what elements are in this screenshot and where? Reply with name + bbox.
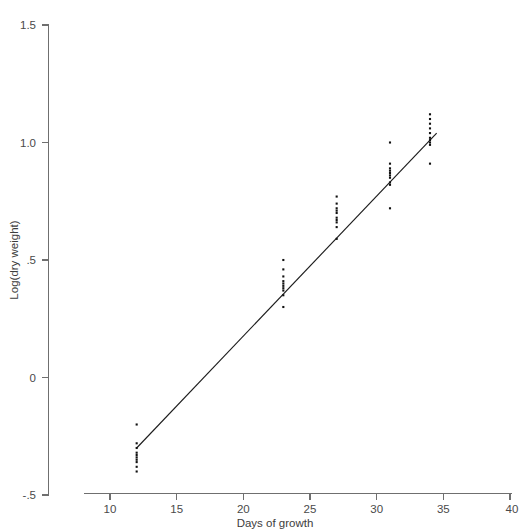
data-point <box>429 141 431 143</box>
y-tick-label-0.5: .5 <box>26 254 36 266</box>
x-tick-label-10: 10 <box>104 503 117 515</box>
data-point <box>136 470 138 472</box>
data-point <box>336 238 338 240</box>
y-axis: 1.5 1.0 .5 0 -.5 Log(dry weight) <box>8 19 49 501</box>
data-point <box>282 259 284 261</box>
data-point <box>429 132 431 134</box>
data-point <box>282 268 284 270</box>
x-tick-label-30: 30 <box>370 503 383 515</box>
data-point <box>389 177 391 179</box>
data-point <box>389 181 391 183</box>
data-point <box>282 294 284 296</box>
data-point <box>389 163 391 165</box>
y-axis-title: Log(dry weight) <box>8 220 20 299</box>
data-point <box>429 127 431 129</box>
data-point-layer <box>136 113 431 472</box>
x-tick-label-25: 25 <box>304 503 317 515</box>
data-point <box>282 285 284 287</box>
data-point <box>136 454 138 456</box>
x-tick-label-35: 35 <box>437 503 450 515</box>
data-point <box>336 217 338 219</box>
data-point <box>336 221 338 223</box>
chart-figure: 1.5 1.0 .5 0 -.5 Log(dry weight) 10 15 2… <box>0 0 520 530</box>
data-point <box>389 170 391 172</box>
data-point <box>429 137 431 139</box>
y-tick-label-1.0: 1.0 <box>20 137 36 149</box>
data-point <box>136 442 138 444</box>
data-point <box>282 290 284 292</box>
data-point <box>136 461 138 463</box>
y-tick-label-0: 0 <box>30 372 36 384</box>
data-point <box>336 203 338 205</box>
data-point <box>389 207 391 209</box>
x-tick-label-15: 15 <box>170 503 183 515</box>
data-point <box>429 163 431 165</box>
data-point <box>282 275 284 277</box>
data-point <box>136 452 138 454</box>
data-point <box>389 141 391 143</box>
scatter-plot-canvas: 1.5 1.0 .5 0 -.5 Log(dry weight) 10 15 2… <box>0 0 520 530</box>
data-point <box>282 280 284 282</box>
x-tick-label-40: 40 <box>506 503 519 515</box>
data-point <box>336 196 338 198</box>
data-point <box>336 226 338 228</box>
data-point <box>389 174 391 176</box>
data-point <box>282 282 284 284</box>
data-point <box>336 219 338 221</box>
regression-line-group <box>137 133 437 448</box>
data-point <box>136 466 138 468</box>
data-point <box>429 118 431 120</box>
data-point <box>136 456 138 458</box>
x-axis-title: Days of growth <box>237 517 314 529</box>
x-axis: 10 15 20 25 30 35 40 Days of growth <box>84 494 518 530</box>
data-point <box>336 207 338 209</box>
y-tick-label-1.5: 1.5 <box>20 19 36 31</box>
data-point <box>429 139 431 141</box>
data-point <box>429 123 431 125</box>
data-point <box>282 287 284 289</box>
data-point <box>136 423 138 425</box>
y-tick-label--0.5: -.5 <box>23 489 36 501</box>
x-tick-label-20: 20 <box>237 503 250 515</box>
data-point <box>136 447 138 449</box>
data-point <box>429 113 431 115</box>
data-point <box>429 144 431 146</box>
data-point <box>282 306 284 308</box>
data-point <box>336 212 338 214</box>
data-point <box>389 172 391 174</box>
data-point <box>136 459 138 461</box>
data-point <box>389 167 391 169</box>
data-point <box>389 184 391 186</box>
regression-line <box>137 133 437 448</box>
data-point <box>336 210 338 212</box>
